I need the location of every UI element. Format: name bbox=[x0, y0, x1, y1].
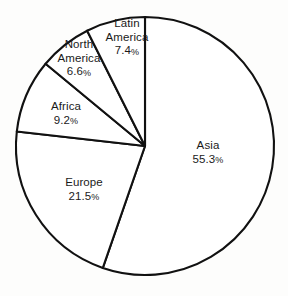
pie-chart: Asia55.3%Europe21.5%Africa9.2%North Amer… bbox=[0, 0, 288, 296]
pie-chart-canvas bbox=[0, 0, 288, 296]
pie-slices-group bbox=[16, 17, 274, 275]
